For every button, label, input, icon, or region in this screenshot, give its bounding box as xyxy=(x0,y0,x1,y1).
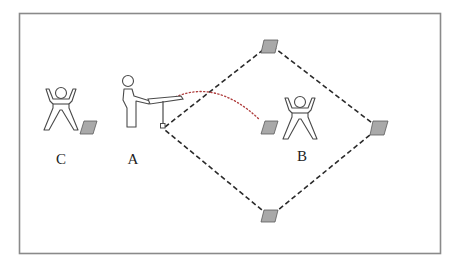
batting-tee xyxy=(161,101,166,128)
first-base xyxy=(370,121,388,135)
tee-home-plate xyxy=(161,124,166,129)
second-base xyxy=(261,40,278,53)
ball-trajectory-arc xyxy=(169,92,260,120)
baseball-diagram: C A B xyxy=(0,0,457,264)
player-c-head xyxy=(56,88,67,99)
player-a-body xyxy=(123,89,150,127)
player-b-figure xyxy=(283,97,317,140)
player-a-head xyxy=(123,76,134,87)
label-b: B xyxy=(297,148,307,164)
pitch-base xyxy=(261,121,278,134)
label-a: A xyxy=(128,151,139,167)
back-base xyxy=(80,121,97,134)
third-base xyxy=(261,210,278,222)
player-b-head xyxy=(295,97,306,108)
bat xyxy=(148,96,183,104)
bases xyxy=(80,40,388,222)
label-c: C xyxy=(56,151,66,167)
player-c-figure xyxy=(44,88,78,131)
